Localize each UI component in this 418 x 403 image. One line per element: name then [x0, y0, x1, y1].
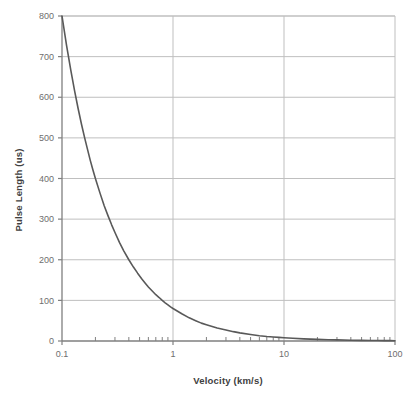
chart-background: [0, 0, 418, 403]
pulse-length-vs-velocity-chart: 0.1110100 0100200300400500600700800 Velo…: [0, 0, 418, 403]
y-tick-label-200: 200: [39, 255, 54, 265]
y-tick-label-800: 800: [39, 11, 54, 21]
x-tick-label-1: 1: [170, 349, 175, 359]
y-tick-label-100: 100: [39, 296, 54, 306]
y-tick-label-500: 500: [39, 133, 54, 143]
y-tick-label-700: 700: [39, 52, 54, 62]
y-tick-label-600: 600: [39, 92, 54, 102]
y-tick-label-400: 400: [39, 174, 54, 184]
y-tick-label-300: 300: [39, 214, 54, 224]
chart-container: 0.1110100 0100200300400500600700800 Velo…: [0, 0, 418, 403]
y-axis-title: Pulse Length (us): [13, 148, 24, 231]
y-tick-label-0: 0: [49, 336, 54, 346]
y-axis-tick-labels: 0100200300400500600700800: [39, 11, 54, 346]
x-axis-title: Velocity (km/s): [193, 375, 263, 386]
x-tick-label-10: 10: [279, 349, 289, 359]
x-tick-label-100: 100: [387, 349, 402, 359]
x-tick-label-0.1: 0.1: [56, 349, 69, 359]
